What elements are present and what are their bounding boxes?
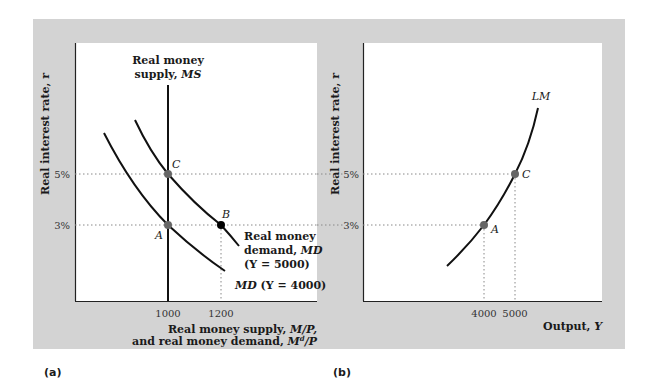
md-y5000-label-line1: Real money	[244, 230, 316, 243]
panel-b-label-c: C	[522, 168, 531, 181]
panel-b-y-axis-label: Real interest rate, r	[329, 73, 342, 195]
panel-a-x-axis-label-line2: and real money demand, Md/P	[132, 334, 318, 348]
panel-b: Real interest rate, r 5% 3% 4000 5000 A …	[329, 43, 603, 333]
panel-a-ytick-3pct: 3%	[54, 220, 70, 231]
panel-a-xtick-1000: 1000	[155, 308, 180, 319]
panel-b-ytick-3pct: 3%	[343, 220, 359, 231]
panel-a-xtick-1200: 1200	[208, 308, 233, 319]
md-y5000-label-line3: (Y = 5000)	[244, 258, 310, 271]
panel-b-plot-area	[363, 43, 602, 301]
panel-a-ytick-5pct: 5%	[54, 169, 70, 180]
panel-a-label-a: A	[154, 229, 163, 242]
panel-b-point-a	[480, 221, 488, 229]
money-supply-label: Real money	[132, 54, 204, 67]
money-market-lm-figure: Real interest rate, r 5% 3% 1000 1200 C …	[0, 0, 652, 388]
md-y5000-label-line2: demand, MD	[244, 244, 323, 257]
panel-a-y-axis-label: Real interest rate, r	[39, 73, 52, 195]
panel-a-label-c: C	[172, 158, 181, 171]
md-y4000-label: MD (Y = 4000)	[234, 279, 326, 292]
lm-curve-label: LM	[531, 90, 551, 103]
panel-b-tag: (b)	[333, 366, 351, 379]
panel-a-point-b	[217, 221, 225, 229]
panel-a-point-a	[164, 221, 172, 229]
panel-b-xtick-5000: 5000	[502, 308, 527, 319]
money-supply-label-line2: supply, MS	[135, 68, 202, 81]
panel-b-xtick-4000: 4000	[471, 308, 496, 319]
panel-a-tag: (a)	[44, 366, 61, 379]
panel-b-x-axis-label: Output, Y	[543, 320, 603, 333]
panel-b-point-c	[511, 170, 519, 178]
panel-b-label-a: A	[490, 223, 499, 236]
panel-b-ytick-5pct: 5%	[343, 169, 359, 180]
panel-a-point-c	[164, 170, 172, 178]
panel-a-label-b: B	[221, 208, 230, 221]
